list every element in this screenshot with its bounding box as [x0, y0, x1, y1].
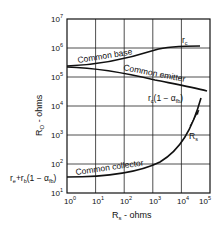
- y-axis-label: RO - ohms: [34, 94, 45, 136]
- rc-alpha-annotation: rc(1 − αfb): [148, 93, 183, 104]
- svg-text:106: 106: [51, 42, 63, 53]
- y-axis-ticks: 107 106 105 104 103 102 101: [51, 13, 63, 198]
- svg-text:100: 100: [64, 195, 76, 206]
- svg-text:105: 105: [199, 195, 211, 206]
- rc-annotation: rc: [182, 35, 188, 46]
- chart: 107 106 105 104 103 102 101 100 101 102 …: [0, 0, 218, 228]
- svg-text:105: 105: [51, 71, 63, 82]
- svg-text:102: 102: [51, 158, 63, 169]
- x-axis-label: Rs - ohms: [112, 210, 152, 221]
- rs-annotation: Rs: [189, 131, 198, 142]
- re-rb-annotation: re+rb(1 − αfb): [10, 173, 57, 184]
- svg-text:103: 103: [149, 195, 161, 206]
- common-emitter-label: Common emitter: [123, 62, 187, 84]
- svg-text:102: 102: [120, 195, 132, 206]
- common-collector-label: Common collector: [75, 158, 144, 177]
- x-axis-ticks: 100 101 102 103 104 105: [64, 195, 211, 206]
- svg-text:103: 103: [51, 129, 63, 140]
- svg-text:101: 101: [92, 195, 104, 206]
- svg-text:107: 107: [51, 13, 63, 24]
- svg-text:101: 101: [51, 187, 63, 198]
- svg-text:104: 104: [177, 195, 189, 206]
- svg-text:104: 104: [51, 100, 63, 111]
